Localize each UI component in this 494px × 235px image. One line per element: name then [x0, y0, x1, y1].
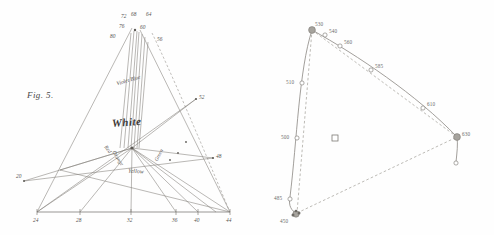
wavelength-label-485: 485 [274, 195, 282, 201]
axis-number-24: 24 [33, 217, 38, 223]
right-figure-svg [247, 0, 494, 235]
apex-number-80: 80 [110, 33, 115, 39]
locus-curve-left [289, 30, 312, 213]
endpoint-markers [293, 27, 461, 218]
triangle-right-edge [140, 30, 230, 212]
side-number-52: 52 [199, 94, 204, 100]
marker-630 [454, 134, 461, 141]
wavelength-label-500: 500 [281, 134, 289, 140]
axis-number-40: 40 [194, 217, 199, 223]
dashed-outer-curve [152, 33, 229, 210]
apex-number-60: 60 [140, 24, 145, 30]
marker-500 [295, 136, 299, 140]
marker-585 [369, 68, 373, 72]
white-point-square-marker [332, 135, 338, 141]
apex-ray-bundle [120, 31, 148, 148]
axis-number-36: 36 [172, 217, 177, 223]
white-center-label: White [112, 115, 142, 129]
marker-560 [338, 44, 342, 48]
marker-610 [421, 106, 425, 110]
wavelength-label-585: 585 [375, 63, 383, 69]
marker-530 [309, 27, 316, 34]
figure-page: Fig. 5. White Violet Blue Red Orange Yel… [0, 0, 494, 235]
locus-curve-right [312, 30, 457, 137]
right-figure-panel: 530 540 560 585 610 630 510 500 485 450 [247, 0, 494, 235]
apex-number-72: 72 [121, 13, 126, 19]
left-figure-panel: Fig. 5. White Violet Blue Red Orange Yel… [0, 0, 247, 235]
apex-number-56: 56 [157, 36, 162, 42]
marker-540 [323, 33, 327, 37]
region-label-yellow: Yellow [128, 167, 144, 174]
wavelength-label-510: 510 [286, 79, 294, 85]
dashed-gamut-triangle [297, 30, 457, 213]
wavelength-label-610: 610 [427, 101, 435, 107]
locus-tail [456, 137, 457, 162]
marker-485 [288, 197, 292, 201]
axis-number-44: 44 [226, 217, 231, 223]
chord-right-to-20 [60, 170, 230, 212]
figure-caption: Fig. 5. [27, 90, 54, 100]
wavelength-markers [288, 33, 458, 201]
marker-510 [300, 81, 304, 85]
side-number-20: 20 [16, 173, 21, 179]
side-number-48: 48 [216, 153, 221, 159]
apex-number-68: 68 [131, 11, 136, 17]
wavelength-label-450: 450 [280, 218, 288, 224]
apex-number-64: 64 [146, 11, 151, 17]
axis-number-28: 28 [76, 217, 81, 223]
wavelength-label-560: 560 [344, 39, 352, 45]
apex-number-76: 76 [119, 23, 124, 29]
axis-number-32: 32 [127, 217, 132, 223]
wavelength-label-540: 540 [329, 28, 337, 34]
wavelength-label-530: 530 [315, 21, 323, 27]
wavelength-label-630: 630 [462, 131, 470, 137]
marker-tail-point [454, 161, 458, 165]
